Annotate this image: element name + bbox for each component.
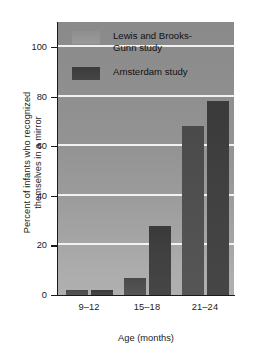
legend-item-amsterdam: Amsterdam study bbox=[72, 66, 236, 80]
bar-amsterdam-21-24 bbox=[207, 101, 229, 295]
bar-amsterdam-15-18 bbox=[149, 226, 171, 296]
y-axis-line bbox=[57, 22, 58, 296]
y-tick-100 bbox=[51, 47, 57, 48]
chart-legend: Lewis and Brooks- Gunn study Amsterdam s… bbox=[72, 30, 236, 89]
legend-label-lewis-brooks-gunn-line-1: Lewis and Brooks- bbox=[113, 30, 192, 42]
y-tick-label-20: 20 bbox=[7, 240, 47, 250]
y-tick-label-0: 0 bbox=[7, 290, 47, 300]
bar-lewis-brooks-gunn-21-24 bbox=[182, 126, 204, 295]
legend-label-lewis-brooks-gunn: Lewis and Brooks- Gunn study bbox=[113, 30, 192, 53]
y-tick-60 bbox=[51, 146, 57, 147]
x-tick-label-15-18: 15–18 bbox=[118, 302, 176, 312]
legend-swatch-lewis-brooks-gunn bbox=[72, 31, 100, 44]
y-tick-label-40: 40 bbox=[7, 191, 47, 201]
y-tick-0 bbox=[51, 295, 57, 296]
y-tick-40 bbox=[51, 196, 57, 197]
y-axis-title-line-1: Percent of infants who recognized bbox=[22, 92, 33, 234]
x-tick-label-21-24: 21–24 bbox=[176, 302, 234, 312]
y-tick-label-100: 100 bbox=[7, 42, 47, 52]
bar-lewis-brooks-gunn-15-18 bbox=[124, 278, 146, 295]
y-tick-label-60: 60 bbox=[7, 141, 47, 151]
bar-chart-figure: Percent of infants who recognized themse… bbox=[0, 0, 259, 357]
legend-item-lewis-brooks-gunn: Lewis and Brooks- Gunn study bbox=[72, 30, 236, 53]
x-axis-line bbox=[57, 295, 235, 296]
y-tick-label-80: 80 bbox=[7, 92, 47, 102]
x-axis-title: Age (months) bbox=[58, 333, 234, 343]
y-tick-80 bbox=[51, 97, 57, 98]
legend-label-amsterdam: Amsterdam study bbox=[113, 66, 188, 78]
x-tick-label-9-12: 9–12 bbox=[60, 302, 118, 312]
legend-label-amsterdam-line-1: Amsterdam study bbox=[113, 66, 188, 78]
y-tick-20 bbox=[51, 245, 57, 246]
y-axis-title-line-2: themselves in a mirror bbox=[33, 92, 44, 234]
legend-label-lewis-brooks-gunn-line-2: Gunn study bbox=[113, 42, 192, 54]
y-axis-title: Percent of infants who recognized themse… bbox=[16, 20, 50, 305]
legend-swatch-amsterdam bbox=[72, 67, 100, 80]
